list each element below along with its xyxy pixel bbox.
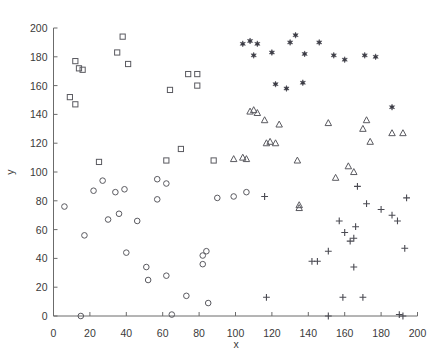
marker-stars-1: [247, 38, 252, 44]
y-tick-label-1: 20: [36, 281, 48, 293]
marker-circles-12: [154, 197, 160, 203]
marker-plus-15: [363, 200, 370, 207]
marker-squares-9: [186, 71, 191, 76]
marker-triangles-18: [360, 125, 366, 131]
marker-plus-14: [360, 294, 367, 301]
marker-circles-6: [116, 211, 122, 217]
marker-triangles-11: [294, 157, 300, 163]
plot-canvas: 0204060801001201401601802000204060801001…: [0, 0, 442, 357]
marker-stars-2: [255, 41, 260, 47]
marker-plus-20: [400, 313, 407, 320]
marker-triangles-21: [389, 130, 395, 136]
x-tick-label-8: 160: [336, 327, 354, 339]
marker-circles-16: [169, 312, 175, 318]
x-tick-label-10: 200: [409, 327, 427, 339]
y-tick-label-7: 140: [30, 108, 48, 120]
marker-squares-7: [126, 61, 131, 66]
y-tick-label-2: 40: [36, 252, 48, 264]
marker-squares-0: [73, 59, 78, 64]
axis-spines: [54, 28, 418, 316]
marker-circles-20: [204, 248, 210, 254]
marker-stars-8: [293, 32, 298, 38]
x-tick-label-3: 60: [157, 327, 169, 339]
marker-plus-11: [350, 264, 357, 271]
marker-triangles-17: [351, 169, 357, 175]
marker-triangles-19: [363, 117, 369, 123]
y-tick-label-9: 180: [30, 51, 48, 63]
marker-stars-4: [269, 49, 274, 55]
marker-plus-4: [325, 248, 332, 255]
marker-stars-7: [288, 39, 293, 45]
marker-triangles-10: [276, 121, 282, 127]
marker-circles-15: [164, 273, 170, 279]
marker-plus-0: [261, 193, 268, 200]
marker-stars-9: [302, 51, 307, 57]
marker-squares-12: [178, 146, 183, 151]
y-tick-label-8: 160: [30, 80, 48, 92]
marker-plus-3: [314, 258, 321, 265]
marker-plus-17: [389, 212, 396, 219]
x-tick-label-4: 80: [193, 327, 205, 339]
marker-circles-4: [105, 217, 111, 223]
y-axis-title: y: [4, 169, 16, 175]
marker-squares-2: [80, 67, 85, 72]
marker-circles-18: [200, 261, 206, 267]
marker-stars-13: [342, 57, 347, 63]
x-tick-label-1: 20: [84, 327, 96, 339]
marker-stars-3: [251, 52, 256, 58]
marker-stars-11: [317, 39, 322, 45]
x-axis-title: x: [233, 338, 239, 350]
marker-plus-7: [339, 294, 346, 301]
marker-circles-13: [154, 176, 160, 182]
marker-squares-8: [167, 87, 172, 92]
marker-circles-21: [205, 300, 211, 306]
marker-plus-8: [341, 229, 348, 236]
y-tick-label-10: 200: [30, 22, 48, 34]
scatter-plot-figure: 0204060801001201401601802000204060801001…: [0, 0, 442, 357]
marker-circles-3: [100, 178, 106, 184]
marker-circles-22: [215, 195, 221, 201]
marker-circles-10: [144, 264, 150, 270]
x-tick-label-9: 180: [372, 327, 390, 339]
marker-squares-11: [195, 83, 200, 88]
marker-stars-6: [284, 85, 289, 91]
marker-circles-11: [145, 277, 151, 283]
marker-squares-5: [120, 34, 125, 39]
marker-circles-24: [231, 194, 237, 200]
marker-triangles-14: [325, 120, 331, 126]
x-tick-label-6: 120: [263, 327, 281, 339]
axis-group: [54, 28, 418, 316]
marker-plus-13: [354, 183, 361, 190]
x-tick-label-7: 140: [300, 327, 318, 339]
marker-circles-14: [164, 181, 170, 187]
marker-squares-6: [115, 50, 120, 55]
marker-squares-15: [211, 158, 216, 163]
marker-stars-10: [300, 80, 305, 86]
marker-circles-8: [124, 250, 130, 256]
marker-plus-12: [352, 223, 359, 230]
y-tick-label-0: 0: [42, 310, 48, 322]
marker-stars-0: [240, 41, 245, 47]
marker-triangles-6: [261, 117, 267, 123]
marker-triangles-16: [345, 163, 351, 169]
marker-plus-19: [396, 311, 403, 318]
marker-circles-5: [113, 189, 119, 195]
marker-triangles-15: [332, 174, 338, 180]
y-tick-label-4: 80: [36, 195, 48, 207]
marker-plus-21: [401, 245, 408, 252]
marker-squares-10: [195, 71, 200, 76]
tick-group: [54, 28, 418, 316]
marker-triangles-0: [230, 156, 236, 162]
marker-circles-9: [134, 218, 140, 224]
marker-circles-25: [244, 189, 250, 195]
marker-triangles-9: [272, 140, 278, 146]
marker-triangles-22: [400, 130, 406, 136]
series-triangles: [230, 107, 406, 211]
marker-stars-5: [273, 81, 278, 87]
marker-circles-2: [91, 188, 97, 194]
x-tick-label-2: 40: [120, 327, 132, 339]
series-circles: [62, 176, 250, 318]
marker-stars-15: [373, 54, 378, 60]
marker-plus-22: [403, 195, 410, 202]
marker-circles-17: [184, 293, 190, 299]
